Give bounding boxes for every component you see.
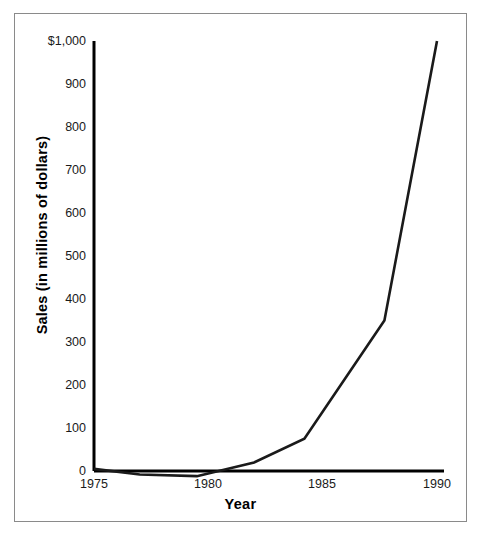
x-tick-label: 1980 bbox=[178, 478, 238, 491]
x-tick-label: 1975 bbox=[64, 478, 124, 491]
axes-lines bbox=[94, 41, 444, 471]
chart-figure: $1,000 900 800 700 600 500 400 300 200 1… bbox=[0, 0, 481, 539]
series-line-sales bbox=[94, 41, 437, 476]
x-axis-title: Year bbox=[0, 496, 481, 512]
x-tick-label: 1990 bbox=[407, 478, 467, 491]
y-tick-label: $1,000 bbox=[24, 35, 86, 48]
y-tick-label: 0 bbox=[24, 465, 86, 478]
x-tick-label: 1985 bbox=[292, 478, 352, 491]
y-axis-title: Sales (in millions of dollars) bbox=[34, 85, 50, 385]
y-tick-label: 100 bbox=[24, 422, 86, 435]
data-series-sales bbox=[94, 41, 437, 476]
